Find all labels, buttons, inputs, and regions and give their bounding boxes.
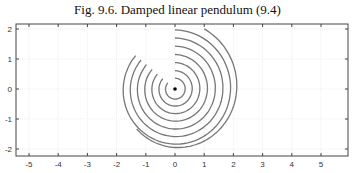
x-tick-label: -5 — [25, 160, 33, 169]
trajectory-curve — [123, 30, 230, 144]
x-tick-label: 4 — [290, 160, 295, 169]
x-tick-label: 0 — [173, 160, 178, 169]
equilibrium-point — [173, 87, 177, 91]
x-tick-label: -1 — [142, 160, 150, 169]
trajectories — [123, 29, 237, 148]
x-tick-label: 2 — [231, 160, 236, 169]
x-tick-label: -4 — [55, 160, 63, 169]
y-tick-label: 2 — [8, 25, 13, 34]
trajectory-curve — [137, 46, 215, 129]
x-tick-label: -2 — [113, 160, 121, 169]
y-tick-label: -2 — [5, 145, 13, 154]
phase-portrait-chart: -5-4-3-2-1012345-2-1012 — [0, 0, 355, 173]
y-tick-label: -1 — [5, 115, 13, 124]
x-tick-label: 1 — [202, 160, 207, 169]
x-tick-label: 5 — [319, 160, 324, 169]
x-tick-label: -3 — [84, 160, 92, 169]
x-tick-label: 3 — [260, 160, 265, 169]
y-tick-label: 0 — [8, 85, 13, 94]
y-tick-label: 1 — [8, 55, 13, 64]
